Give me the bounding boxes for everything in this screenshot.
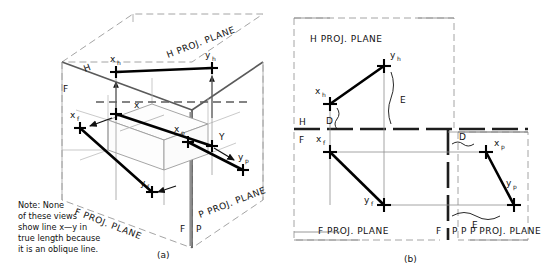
panel-b: H PROJ. PLANE F PROJ. PLANE P PROJ. PLAN… bbox=[294, 18, 541, 264]
label-b-yp: y bbox=[506, 178, 512, 188]
mark-yp bbox=[237, 164, 249, 176]
panel-b-fold-f-label: F bbox=[299, 135, 305, 145]
label-b-yh-sub: h bbox=[397, 55, 401, 62]
label-b-xp-sub: p bbox=[501, 143, 505, 151]
label-y: Y bbox=[218, 132, 225, 142]
panel-a-caption: (a) bbox=[157, 250, 170, 260]
panel-b-h-plane-label: H PROJ. PLANE bbox=[310, 34, 383, 44]
panel-b-dim-d-top: D bbox=[326, 116, 333, 126]
panel-a-fold-p-label: P bbox=[196, 224, 202, 234]
label-xp: x bbox=[174, 124, 180, 134]
f-plane-border bbox=[294, 132, 440, 240]
figure-canvas: H PROJ. PLANE F PROJ. PLANE P PROJ. PLAN… bbox=[0, 0, 546, 278]
panel-a-fold-f2-label: F bbox=[180, 224, 186, 234]
label-xf-sub: f bbox=[77, 115, 80, 122]
panel-b-dim-e-top: E bbox=[400, 95, 406, 105]
note-line-2: of these views bbox=[18, 211, 77, 221]
panel-a: H PROJ. PLANE F PROJ. PLANE P PROJ. PLAN… bbox=[18, 14, 267, 260]
panel-b-dim-e-bottom: E bbox=[472, 220, 478, 230]
label-b-xp: x bbox=[494, 138, 500, 148]
brace-d-right bbox=[452, 142, 474, 146]
line-xy-views bbox=[80, 68, 243, 192]
panel-b-fold-f2-label: F bbox=[436, 226, 442, 236]
note-line-5: it is an oblique line. bbox=[18, 244, 98, 254]
panel-b-point-marks bbox=[323, 59, 521, 212]
panel-b-fold-p2-label: P bbox=[461, 226, 467, 236]
panel-b-fold-p-label: P bbox=[452, 226, 458, 236]
label-xh-sub: h bbox=[117, 59, 121, 66]
panel-b-line-views bbox=[330, 66, 514, 205]
label-yf: y bbox=[140, 178, 146, 188]
panel-b-f-plane-label: F PROJ. PLANE bbox=[318, 226, 389, 236]
label-yh: y bbox=[205, 50, 211, 60]
line-b-xh-yh bbox=[330, 66, 384, 104]
line-xh-yh bbox=[116, 68, 212, 72]
mark-xh bbox=[110, 66, 122, 78]
label-b-yf-sub: f bbox=[371, 200, 374, 207]
mark-b-xp bbox=[479, 145, 493, 159]
mark-b-yp bbox=[507, 198, 521, 212]
panel-a-note: Note: None of these views show line x—y … bbox=[18, 200, 100, 254]
label-b-yh: y bbox=[390, 50, 396, 60]
h-plane-outline bbox=[62, 14, 263, 62]
note-line-1: Note: None bbox=[18, 200, 64, 210]
label-b-xf: x bbox=[316, 134, 322, 144]
label-yp: y bbox=[238, 152, 244, 162]
label-b-xf-sub: f bbox=[323, 139, 326, 146]
label-x: x bbox=[134, 100, 140, 110]
panel-b-p-plane-label: P PROJ. PLANE bbox=[470, 226, 541, 236]
label-yh-sub: h bbox=[212, 55, 216, 62]
brace-e-top bbox=[389, 72, 394, 124]
technical-drawing: H PROJ. PLANE F PROJ. PLANE P PROJ. PLAN… bbox=[0, 0, 546, 278]
label-xf: x bbox=[70, 110, 76, 120]
note-line-4: true length because bbox=[18, 233, 100, 243]
panel-b-caption: (b) bbox=[404, 254, 417, 264]
note-line-3: show line x—y in bbox=[18, 222, 87, 232]
mark-yh bbox=[206, 62, 218, 74]
brace-d-top bbox=[335, 108, 339, 129]
panel-b-dim-d-right: D bbox=[459, 132, 466, 142]
panel-b-fold-h-label: H bbox=[299, 117, 306, 127]
panel-b-projection-lines bbox=[330, 66, 528, 205]
object-block bbox=[108, 104, 208, 170]
label-b-yp-sub: p bbox=[513, 183, 517, 191]
panel-a-fold-f-label: F bbox=[63, 84, 69, 94]
panel-a-p-plane-label: P PROJ. PLANE bbox=[197, 185, 267, 220]
panel-b-dimension-braces bbox=[335, 72, 500, 220]
label-b-yf: y bbox=[364, 195, 370, 205]
label-yp-sub: p bbox=[245, 157, 249, 165]
label-xp-sub: p bbox=[181, 129, 185, 137]
label-b-xh-sub: h bbox=[322, 91, 326, 98]
line-b-xf-yf bbox=[330, 152, 384, 205]
label-b-xh: x bbox=[315, 86, 321, 96]
p-plane-border bbox=[458, 132, 528, 240]
brace-e-bottom bbox=[452, 213, 500, 220]
label-xh: x bbox=[110, 54, 116, 64]
panel-a-h-plane-label: H PROJ. PLANE bbox=[165, 25, 236, 60]
arrow-to-yf bbox=[158, 186, 176, 192]
